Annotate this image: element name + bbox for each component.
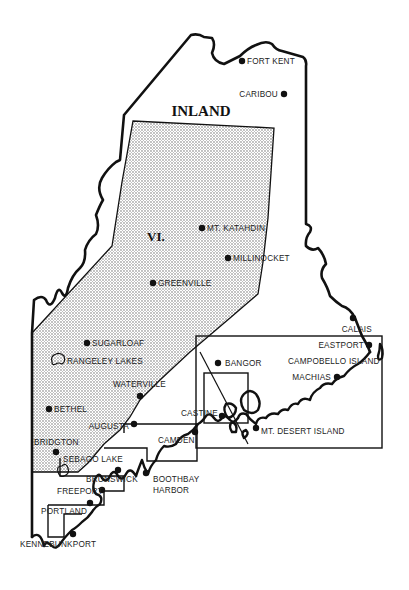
region-number: VI. bbox=[147, 229, 165, 244]
town-caribou: CARIBOU bbox=[239, 90, 287, 99]
svg-text:BRUNSWICK: BRUNSWICK bbox=[86, 475, 138, 484]
island-mt-desert bbox=[241, 391, 260, 413]
svg-text:MILLINOCKET: MILLINOCKET bbox=[233, 254, 290, 263]
town-bangor: BANGOR bbox=[215, 359, 262, 368]
region-title: INLAND bbox=[171, 103, 230, 119]
town-camden: CAMDEN bbox=[158, 429, 198, 445]
svg-text:HARBOR: HARBOR bbox=[153, 486, 189, 495]
svg-text:MT. KATAHDIN: MT. KATAHDIN bbox=[207, 224, 265, 233]
town-sebago-lake: SEBAGO LAKE bbox=[63, 455, 123, 464]
svg-text:BOOTHBAY: BOOTHBAY bbox=[153, 475, 200, 484]
town-campobello-island: CAMPOBELLO ISLAND bbox=[288, 357, 380, 366]
town-millinocket: MILLINOCKET bbox=[225, 254, 290, 263]
town-rangeley-lakes: RANGELEY LAKES bbox=[67, 357, 143, 366]
svg-text:SUGARLOAF: SUGARLOAF bbox=[92, 339, 144, 348]
svg-text:MACHIAS: MACHIAS bbox=[292, 373, 331, 382]
town-portland: PORTLAND bbox=[41, 500, 93, 516]
svg-text:MT. DESERT ISLAND: MT. DESERT ISLAND bbox=[261, 427, 345, 436]
town-greenville: GREENVILLE bbox=[150, 279, 212, 288]
svg-text:WATERVILLE: WATERVILLE bbox=[113, 380, 166, 389]
svg-text:KENNEBUNKPORT: KENNEBUNKPORT bbox=[20, 540, 96, 549]
town-augusta: AUGUSTA bbox=[89, 421, 138, 431]
svg-text:GREENVILLE: GREENVILLE bbox=[158, 279, 212, 288]
svg-text:BANGOR: BANGOR bbox=[225, 359, 262, 368]
town-sugarloaf: SUGARLOAF bbox=[84, 339, 145, 348]
town-calais: CALAIS bbox=[342, 315, 373, 334]
svg-text:FORT KENT: FORT KENT bbox=[247, 57, 295, 66]
town-fort-kent: FORT KENT bbox=[239, 57, 295, 66]
svg-text:CARIBOU: CARIBOU bbox=[239, 90, 278, 99]
town-mt-katahdin: MT. KATAHDIN bbox=[199, 224, 265, 233]
town-freeport: FREEPORT bbox=[57, 487, 105, 496]
svg-text:AUGUSTA: AUGUSTA bbox=[89, 422, 130, 431]
svg-text:BRIDGTON: BRIDGTON bbox=[34, 438, 79, 447]
svg-text:SEBAGO LAKE: SEBAGO LAKE bbox=[63, 455, 123, 464]
svg-text:CALAIS: CALAIS bbox=[342, 325, 373, 334]
svg-text:CAMPOBELLO ISLAND: CAMPOBELLO ISLAND bbox=[288, 357, 380, 366]
svg-text:RANGELEY LAKES: RANGELEY LAKES bbox=[67, 357, 143, 366]
town-boothbay-harbor: BOOTHBAY HARBOR bbox=[143, 470, 200, 495]
town-mt-desert-island: MT. DESERT ISLAND bbox=[253, 425, 345, 436]
svg-text:CAMDEN: CAMDEN bbox=[158, 436, 195, 445]
svg-text:BETHEL: BETHEL bbox=[54, 405, 87, 414]
town-castine: CASTINE bbox=[181, 409, 225, 419]
town-machias: MACHIAS bbox=[292, 373, 340, 382]
svg-text:PORTLAND: PORTLAND bbox=[41, 507, 87, 516]
svg-text:FREEPORT: FREEPORT bbox=[57, 487, 103, 496]
svg-text:EASTPORT: EASTPORT bbox=[318, 341, 364, 350]
town-eastport: EASTPORT bbox=[318, 341, 372, 350]
svg-text:CASTINE: CASTINE bbox=[181, 409, 218, 418]
maine-region-map: INLAND VI. FORT KENT CARIBOU MT. KATAHDI… bbox=[0, 0, 409, 590]
